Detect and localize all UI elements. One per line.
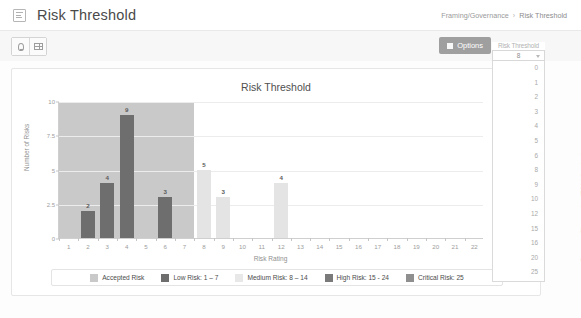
- chart-bar[interactable]: 4: [100, 183, 114, 238]
- breadcrumb-parent[interactable]: Framing/Governance: [441, 11, 509, 20]
- y-axis-title: Number of Risks: [23, 124, 30, 171]
- x-axis-tick-mark: [233, 238, 234, 241]
- x-axis-tick-label: 10: [239, 243, 246, 250]
- risk-threshold-option[interactable]: 12: [493, 207, 544, 222]
- chart-bar[interactable]: 4: [274, 183, 288, 238]
- risk-threshold-option[interactable]: 3: [493, 105, 544, 120]
- x-axis-tick-mark: [291, 238, 292, 241]
- x-axis-tick-label: 7: [183, 243, 186, 250]
- x-axis-tick-label: 21: [452, 243, 459, 250]
- legend-label: High Risk: 15 - 24: [337, 274, 389, 281]
- legend-item[interactable]: Medium Risk: 8 – 14: [235, 274, 307, 282]
- x-axis-tick-label: 12: [278, 243, 285, 250]
- risk-threshold-select-label: Risk Threshold: [492, 42, 545, 50]
- y-axis-tick-label: 10: [48, 99, 55, 105]
- y-axis-tick-label: 5: [52, 168, 55, 174]
- x-axis-tick-label: 8: [202, 243, 205, 250]
- x-axis-tick-label: 5: [144, 243, 147, 250]
- legend-item[interactable]: Critical Risk: 25: [406, 274, 464, 282]
- chart-bar[interactable]: 5: [197, 170, 211, 239]
- risk-threshold-page: Risk Threshold Framing/Governance › Risk…: [0, 0, 581, 318]
- chevron-down-icon: [536, 55, 540, 58]
- breadcrumb-current: Risk Threshold: [519, 11, 567, 20]
- legend-swatch: [325, 274, 333, 282]
- legend-item[interactable]: Low Risk: 1 – 7: [161, 274, 218, 282]
- risk-threshold-option[interactable]: 20: [493, 251, 544, 266]
- x-axis-tick-label: 22: [471, 243, 478, 250]
- risk-threshold-option[interactable]: 16: [493, 236, 544, 251]
- chart-bar[interactable]: 2: [81, 211, 95, 238]
- risk-threshold-option[interactable]: 1: [493, 76, 544, 91]
- x-axis-tick-mark: [214, 238, 215, 241]
- risk-threshold-option[interactable]: 4: [493, 119, 544, 134]
- chart-bar-value-label: 4: [274, 174, 288, 181]
- x-axis-tick-label: 1: [67, 243, 70, 250]
- table-grid-icon: [34, 43, 43, 50]
- y-axis-tick-label: 0: [52, 236, 55, 242]
- x-axis-tick-label: 18: [394, 243, 401, 250]
- x-axis-tick-mark: [445, 238, 446, 241]
- x-axis-title: Risk Rating: [58, 255, 483, 262]
- x-axis-tick-mark: [368, 238, 369, 241]
- x-axis-tick-mark: [272, 238, 273, 241]
- x-axis-tick-label: 16: [355, 243, 362, 250]
- x-axis-tick-mark: [117, 238, 118, 241]
- x-axis-tick-label: 4: [125, 243, 128, 250]
- legend-item[interactable]: Accepted Risk: [90, 274, 144, 282]
- options-button[interactable]: Options: [439, 37, 491, 54]
- breadcrumb: Framing/Governance › Risk Threshold: [441, 11, 567, 20]
- lightbulb-button[interactable]: [12, 38, 29, 55]
- chart-bar[interactable]: 9: [120, 115, 134, 238]
- chart-legend: Accepted RiskLow Risk: 1 – 7Medium Risk:…: [51, 269, 503, 286]
- chart-bar-value-label: 3: [158, 188, 172, 195]
- x-axis-tick-label: 9: [221, 243, 224, 250]
- x-axis-tick-label: 15: [336, 243, 343, 250]
- x-axis-tick-mark: [78, 238, 79, 241]
- x-axis-tick-label: 11: [259, 243, 265, 250]
- x-axis-tick-label: 13: [297, 243, 304, 250]
- risk-threshold-option[interactable]: 9: [493, 178, 544, 193]
- risk-threshold-option[interactable]: 25: [493, 265, 544, 280]
- risk-threshold-option[interactable]: 8: [493, 163, 544, 178]
- risk-threshold-option[interactable]: 10: [493, 192, 544, 207]
- toolbar-button-group: [11, 37, 47, 56]
- risk-threshold-selected-value: 8: [517, 52, 521, 59]
- risk-threshold-option[interactable]: 2: [493, 90, 544, 105]
- page-title: Risk Threshold: [37, 7, 136, 23]
- risk-threshold-select[interactable]: 8: [492, 50, 545, 61]
- chart-bar[interactable]: 3: [158, 197, 172, 238]
- risk-threshold-option[interactable]: 0: [493, 61, 544, 76]
- chart-card: Risk Threshold Number of Risks 02.557.51…: [11, 68, 541, 296]
- chart-bar-value-label: 5: [197, 161, 211, 168]
- legend-swatch: [235, 274, 243, 282]
- x-axis-tick-label: 20: [432, 243, 439, 250]
- x-axis-tick-mark: [136, 238, 137, 241]
- x-axis-tick-mark: [175, 238, 176, 241]
- x-axis-tick-label: 6: [164, 243, 167, 250]
- chart-gridline: [59, 102, 483, 103]
- x-axis-tick-label: 3: [106, 243, 109, 250]
- legend-label: Low Risk: 1 – 7: [173, 274, 218, 281]
- legend-label: Accepted Risk: [102, 274, 144, 281]
- chart-bar[interactable]: 3: [216, 197, 230, 238]
- report-icon: [13, 9, 26, 22]
- risk-threshold-option-list[interactable]: 012345689101215162025: [492, 61, 545, 282]
- chart-bar-value-label: 2: [81, 202, 95, 209]
- x-axis-tick-mark: [310, 238, 311, 241]
- legend-swatch: [161, 274, 169, 282]
- legend-item[interactable]: High Risk: 15 - 24: [325, 274, 389, 282]
- risk-threshold-option[interactable]: 6: [493, 149, 544, 164]
- risk-threshold-option[interactable]: 15: [493, 222, 544, 237]
- x-axis-tick-label: 19: [413, 243, 420, 250]
- x-axis-tick-mark: [252, 238, 253, 241]
- risk-threshold-option[interactable]: 5: [493, 134, 544, 149]
- x-axis-tick-label: 2: [86, 243, 89, 250]
- x-axis-tick-mark: [98, 238, 99, 241]
- table-grid-button[interactable]: [29, 38, 46, 55]
- options-square-icon: [447, 43, 453, 49]
- options-button-label: Options: [457, 41, 483, 50]
- x-axis-tick-mark: [349, 238, 350, 241]
- legend-swatch: [90, 274, 98, 282]
- x-axis-tick-mark: [407, 238, 408, 241]
- y-axis-tick-label: 2.5: [47, 202, 55, 208]
